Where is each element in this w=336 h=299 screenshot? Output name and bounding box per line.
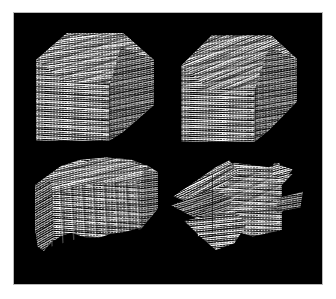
- cube-a-edge-vertical: [109, 83, 110, 141]
- cube-b-edge-vertical: [255, 88, 256, 142]
- panel-fractured-cube: [171, 147, 303, 259]
- figure-plate: [14, 13, 322, 284]
- panel-folded-cube: [179, 32, 297, 144]
- panel-undeformed-cube: [36, 31, 154, 143]
- figure-root: Seismic data cube deformation sequence U…: [0, 0, 336, 299]
- panel-warped-cube: [34, 149, 158, 255]
- cube-d-edge-vertical: [212, 174, 213, 232]
